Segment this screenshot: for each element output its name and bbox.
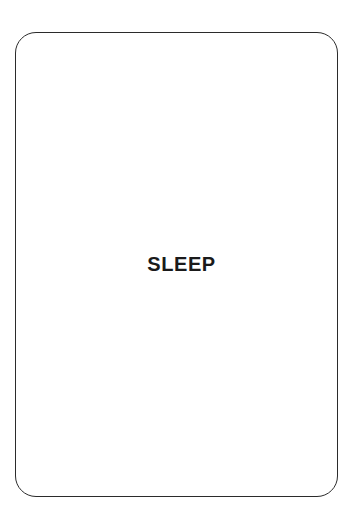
state-box-label: SLEEP [147, 254, 216, 274]
diagram-canvas: SLEEP [0, 0, 363, 526]
state-box-sleep[interactable]: SLEEP [15, 32, 338, 497]
